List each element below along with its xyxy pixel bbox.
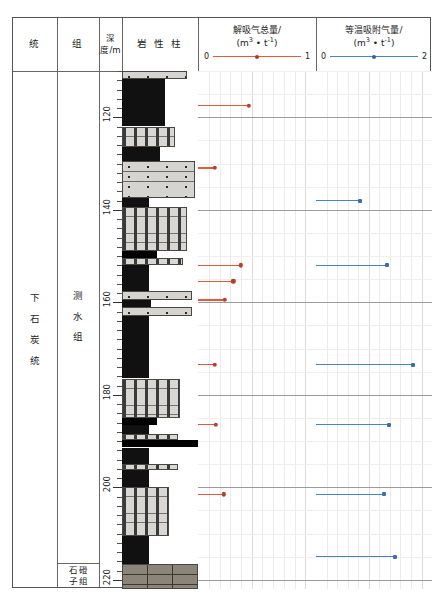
- plot-gridline-horizontal: [316, 441, 432, 442]
- plot-gridline-horizontal: [316, 487, 432, 488]
- data-point[interactable]: [385, 263, 389, 267]
- series-char-2: 石: [30, 309, 40, 330]
- isothermal-axis-line: [330, 56, 418, 57]
- desorption-axis-scale: 0 1: [204, 52, 310, 61]
- plot-gridline-horizontal: [316, 71, 432, 72]
- plot-gridline-horizontal: [316, 140, 432, 141]
- data-point[interactable]: [393, 555, 397, 559]
- unit-close: ): [274, 38, 278, 48]
- data-point[interactable]: [212, 362, 216, 366]
- data-point[interactable]: [213, 423, 217, 427]
- data-stem: [316, 265, 387, 266]
- formation-label-ceshui: 测 水 组: [57, 71, 99, 563]
- plot-gridline-horizontal: [198, 441, 316, 442]
- isothermal-adsorption-plot: [316, 71, 432, 589]
- isothermal-title-line1: 等温吸附气量/: [345, 24, 402, 36]
- desorption-axis-min: 0: [204, 52, 209, 61]
- series-label-lower-carboniferous: 下 石 炭 统: [13, 71, 57, 589]
- plot-gridline-horizontal: [198, 187, 316, 188]
- depth-tick-major: [113, 302, 122, 303]
- lithology-bed-coal: [122, 79, 165, 126]
- data-stem: [316, 494, 384, 495]
- plot-gridline-horizontal: [198, 349, 316, 350]
- data-stem: [316, 200, 360, 201]
- depth-tick-major: [113, 210, 122, 211]
- plot-gridline-horizontal: [316, 117, 432, 118]
- isothermal-axis-max: 2: [422, 52, 427, 61]
- lithology-bed-coal: [122, 300, 151, 307]
- plot-gridline-horizontal: [198, 372, 316, 373]
- unit-t-2: • t: [370, 38, 385, 48]
- data-point[interactable]: [411, 363, 415, 367]
- isothermal-axis-mid-dot: [372, 55, 376, 59]
- header-formation-label: 组: [72, 38, 84, 51]
- plot-gridline-horizontal: [198, 487, 316, 488]
- data-point[interactable]: [222, 492, 226, 496]
- header-depth: 深度/m: [99, 18, 122, 71]
- data-stem: [316, 556, 395, 557]
- data-stem: [316, 424, 389, 425]
- isothermal-title-line2: (m3 • t-1): [354, 36, 395, 49]
- data-stem: [198, 494, 224, 495]
- plot-gridline-horizontal: [198, 117, 316, 118]
- header-desorption-gas: 解吸气总量/ (m3 • t-1) 0 1: [198, 24, 316, 71]
- shidengzi-char-3: 子: [69, 576, 78, 587]
- desorption-axis-max: 1: [305, 52, 310, 61]
- data-point[interactable]: [238, 263, 242, 267]
- plot-gridline-horizontal: [316, 233, 432, 234]
- data-point[interactable]: [358, 199, 362, 203]
- plot-gridline-horizontal: [316, 464, 432, 465]
- lithology-bed-siltstone: [122, 207, 187, 251]
- plot-gridline-horizontal: [316, 94, 432, 95]
- data-stem: [198, 281, 233, 282]
- lithology-bed-coal: [122, 470, 149, 488]
- plot-gridline-horizontal: [198, 395, 316, 396]
- depth-axis: 120140160180200220: [99, 71, 122, 589]
- shidengzi-char-4: 组: [79, 576, 88, 587]
- plot-gridline-horizontal: [316, 302, 432, 303]
- lithology-bed-band: [122, 418, 157, 425]
- lithology-bed-sandstone: [122, 71, 187, 79]
- header-series-label: 统: [29, 38, 41, 51]
- figure-frame: 统 组 深度/m 岩 性 柱 解吸气总量/ (m3 • t-1) 0 1 等温吸…: [12, 17, 431, 588]
- depth-label: 160: [102, 291, 112, 307]
- plot-gridline-horizontal: [198, 418, 316, 419]
- depth-label: 220: [102, 569, 112, 585]
- desorption-gas-plot: [198, 71, 316, 589]
- plot-gridline-horizontal: [198, 302, 316, 303]
- data-point[interactable]: [387, 423, 391, 427]
- unit-m: (m: [237, 38, 249, 48]
- lithology-bed-coal: [122, 265, 149, 290]
- lithology-bed-coal: [122, 425, 149, 434]
- desorption-axis-mid-dot: [255, 55, 259, 59]
- lithology-bed-siltstone: [122, 379, 180, 418]
- header-formation: 组: [57, 18, 99, 71]
- plot-gridline-horizontal: [198, 580, 316, 581]
- header-isothermal-adsorption: 等温吸附气量/ (m3 • t-1) 0 2: [316, 24, 432, 71]
- depth-tick-major: [113, 395, 122, 396]
- unit-m-2: (m: [354, 38, 366, 48]
- header-lithology-label: 岩 性 柱: [137, 38, 183, 51]
- plot-gridline-horizontal: [198, 464, 316, 465]
- ceshui-char-3: 组: [73, 327, 83, 348]
- data-stem: [316, 364, 413, 365]
- data-point[interactable]: [246, 103, 250, 107]
- depth-tick-major: [113, 580, 122, 581]
- data-point[interactable]: [212, 166, 216, 170]
- plot-gridline-horizontal: [316, 349, 432, 350]
- ceshui-char-1: 测: [73, 286, 83, 307]
- shidengzi-char-1: 石: [69, 565, 78, 576]
- plot-gridline-horizontal: [198, 510, 316, 511]
- lithology-bed-coal: [122, 448, 149, 465]
- plot-gridline-horizontal: [198, 325, 316, 326]
- isothermal-axis-min: 0: [321, 52, 326, 61]
- plot-gridline-horizontal: [316, 580, 432, 581]
- data-stem: [198, 105, 249, 106]
- data-point[interactable]: [231, 279, 235, 283]
- data-stem: [198, 299, 225, 300]
- lithology-bed-coal: [122, 198, 149, 207]
- shidengzi-col-2: 磴 组: [79, 565, 88, 587]
- depth-tick-major: [113, 117, 122, 118]
- depth-label: 140: [102, 199, 112, 215]
- data-point[interactable]: [382, 492, 386, 496]
